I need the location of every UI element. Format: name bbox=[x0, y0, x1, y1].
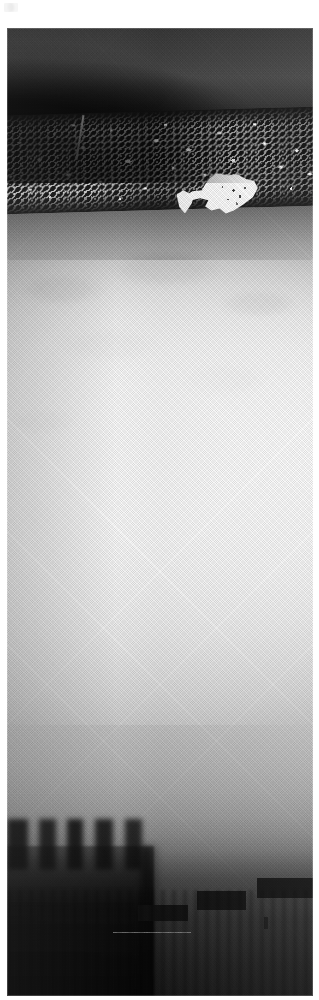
page-canvas bbox=[0, 0, 319, 1000]
top-left-vignette bbox=[7, 28, 313, 183]
scanned-photograph bbox=[7, 28, 313, 996]
scan-artifact-mark bbox=[4, 3, 18, 12]
bottom-edge-striations bbox=[7, 890, 313, 996]
photo-caption bbox=[14, 992, 307, 996]
